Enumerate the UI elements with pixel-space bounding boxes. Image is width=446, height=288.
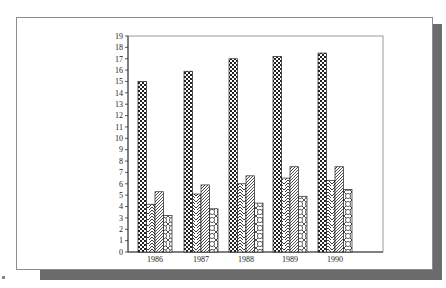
- bar-1987-series-3: [201, 185, 210, 252]
- bar-1986-series-4: [164, 216, 173, 252]
- bar-chart: 0123456789101112131415161718191986198719…: [0, 0, 446, 288]
- y-tick-label: 11: [115, 123, 123, 132]
- x-tick-label: 1990: [327, 255, 343, 264]
- bar-1987-series-2: [193, 194, 202, 252]
- y-tick-label: 6: [119, 180, 123, 189]
- x-tick-label: 1988: [238, 255, 254, 264]
- y-tick-label: 7: [119, 168, 123, 177]
- bar-1988-series-3: [246, 176, 255, 252]
- bar-1989-series-1: [273, 56, 282, 252]
- bar-1986-series-1: [138, 81, 147, 252]
- bar-1990-series-1: [318, 53, 327, 252]
- y-tick-label: 4: [119, 202, 123, 211]
- y-tick-label: 19: [115, 32, 123, 41]
- bar-1988-series-2: [238, 184, 247, 252]
- bar-1989-series-3: [290, 167, 299, 252]
- y-tick-label: 8: [119, 157, 123, 166]
- bar-1986-series-3: [155, 192, 164, 252]
- y-tick-label: 0: [119, 248, 123, 257]
- bar-1990-series-4: [344, 189, 353, 252]
- y-tick-label: 12: [115, 111, 123, 120]
- bar-1989-series-4: [299, 196, 308, 252]
- y-tick-label: 16: [115, 66, 123, 75]
- y-tick-label: 13: [115, 100, 123, 109]
- y-tick-label: 17: [115, 55, 123, 64]
- bar-1986-series-2: [147, 204, 156, 252]
- y-tick-label: 5: [119, 191, 123, 200]
- x-tick-label: 1987: [193, 255, 209, 264]
- y-tick-label: 10: [115, 134, 123, 143]
- bar-1990-series-3: [335, 167, 344, 252]
- bar-1988-series-4: [255, 203, 264, 252]
- x-tick-label: 1989: [282, 255, 298, 264]
- y-tick-label: 15: [115, 77, 123, 86]
- x-tick-label: 1986: [147, 255, 163, 264]
- bar-1988-series-1: [229, 59, 238, 252]
- bar-1990-series-2: [327, 180, 336, 252]
- y-tick-label: 18: [115, 43, 123, 52]
- bar-1989-series-2: [282, 178, 291, 252]
- y-tick-label: 14: [115, 89, 123, 98]
- y-tick-label: 1: [119, 236, 123, 245]
- y-tick-label: 3: [119, 214, 123, 223]
- chart-bars: [138, 53, 352, 252]
- y-tick-label: 9: [119, 145, 123, 154]
- y-tick-label: 2: [119, 225, 123, 234]
- bar-1987-series-4: [210, 209, 219, 252]
- bar-1987-series-1: [184, 71, 193, 252]
